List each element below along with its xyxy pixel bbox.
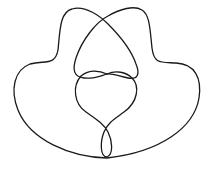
knot-inner-strand <box>75 71 136 157</box>
knot-outer-strand <box>14 8 200 158</box>
knot-curve-canvas <box>0 0 209 169</box>
knot-diagram <box>0 0 209 169</box>
